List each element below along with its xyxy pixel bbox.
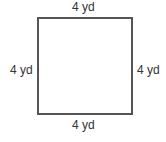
left-side-label: 4 yd bbox=[10, 63, 33, 77]
right-side-label: 4 yd bbox=[137, 63, 160, 77]
top-side-label: 4 yd bbox=[72, 0, 95, 14]
square-shape bbox=[37, 17, 133, 115]
bottom-side-label: 4 yd bbox=[72, 118, 95, 132]
